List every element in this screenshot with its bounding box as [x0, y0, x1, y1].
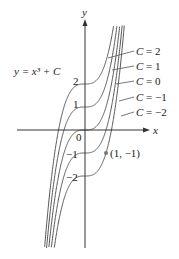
cubic-curves: [45, 25, 125, 248]
curve-label-c0: C = 0: [136, 75, 161, 87]
curve-label-c1: C = 1: [136, 60, 161, 72]
y-axis-arrow-icon: [83, 19, 88, 26]
x-axis-arrow-icon: [143, 128, 150, 133]
y-tick-neg1: −1: [66, 148, 78, 160]
origin-label: 0: [76, 131, 82, 143]
curve-label-cneg1: C = −1: [136, 91, 167, 103]
y-tick-neg2: −2: [66, 171, 78, 183]
curve-cneg2: [54, 26, 124, 248]
y-tick-2: 2: [73, 75, 79, 87]
x-axis-label: x: [152, 124, 158, 136]
curve-label-c2: C = 2: [136, 45, 161, 57]
y-axis-label: y: [81, 6, 87, 18]
family-of-curves-diagram: x y y = x³ + C 0 2 1 −1 −2 C = 2 C = 1 C…: [0, 0, 179, 259]
point-label: (1, −1): [110, 147, 140, 160]
equation-label: y = x³ + C: [13, 65, 61, 77]
curve-c0: [49, 27, 120, 247]
curve-label-cneg2: C = −2: [136, 106, 167, 118]
y-tick-1: 1: [73, 98, 79, 110]
point-marker: [104, 151, 108, 155]
